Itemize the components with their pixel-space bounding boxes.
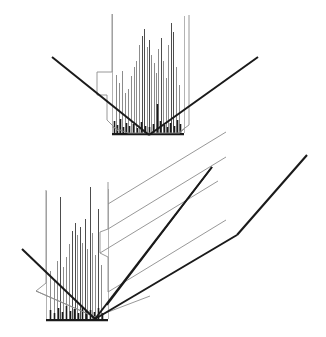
technical-drawing-svg <box>0 0 326 337</box>
figure-background <box>0 0 326 337</box>
figure-canvas <box>0 0 326 337</box>
